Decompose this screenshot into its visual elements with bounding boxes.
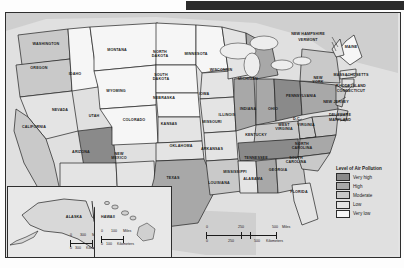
state-label-ohio: OHIO: [253, 107, 293, 111]
state-label-georgia: GEORGIA: [258, 168, 298, 172]
hawaii-label: HAWAII: [101, 215, 133, 219]
hawaii-miles-row: 0 100 Miles: [101, 229, 157, 236]
alaska-axis-line: [70, 243, 92, 244]
state-label-d-c: D.C.: [277, 117, 317, 121]
state-montana: [90, 23, 158, 71]
state-label-south-dakota: SOUTH DAKOTA: [141, 73, 181, 81]
legend-label: High: [353, 184, 362, 189]
state-label-california: CALIFORNIA: [14, 125, 54, 129]
state-label-delaware: DELAWARE: [320, 113, 360, 117]
legend-label: Moderate: [353, 193, 372, 198]
hawaii-km-tick-0: 0: [101, 242, 103, 246]
state-label-rhode-island: RHODE ISLAND: [331, 84, 371, 88]
hawaii-miles-tick-0: 0: [101, 229, 103, 233]
legend-swatch-icon: [336, 173, 350, 181]
legend-swatch-icon: [336, 182, 350, 190]
scale-miles-tick-0: 0: [206, 225, 208, 229]
hawaii-miles-tick-1: 100: [111, 229, 117, 233]
state-north-dakota: [156, 23, 196, 65]
scale-km-tick-0: 0: [206, 239, 208, 243]
state-label-pennsylvania: PENNSYLVANIA: [281, 94, 321, 98]
state-label-alabama: ALABAMA: [233, 177, 273, 181]
state-label-virginia: VIRGINIA: [286, 123, 326, 127]
state-label-new-hampshire: NEW HAMPSHIRE: [288, 32, 328, 36]
state-label-nebraska: NEBRASKA: [144, 96, 184, 100]
state-illinois: [234, 77, 256, 131]
alaska-miles-tick-1: 300: [80, 233, 86, 237]
legend-swatch-icon: [336, 191, 350, 199]
scale-miles-tick-1: 250: [238, 225, 244, 229]
scale-miles-tick-2: 500: [272, 225, 278, 229]
main-scale-bar: 0 250 500 Miles 0 250 500 Kilometers: [206, 225, 298, 247]
scale-tick-start: [206, 232, 207, 239]
scale-km-tick-2: 500: [254, 239, 260, 243]
scale-km-row: 0 250 500 Kilometers: [206, 240, 298, 247]
state-label-iowa: IOWA: [184, 92, 224, 96]
state-label-maine: MAINE: [331, 45, 371, 49]
legend-swatch-icon: [336, 210, 350, 218]
state-label-north-carolina: NORTH CAROLINA: [282, 142, 322, 150]
state-alabama: [256, 159, 278, 193]
state-label-minnesota: MINNESOTA: [176, 52, 216, 56]
legend-item-high[interactable]: High: [336, 182, 401, 190]
state-label-colorado: COLORADO: [114, 118, 154, 122]
state-indiana: [256, 79, 276, 125]
legend-label: Low: [353, 202, 361, 207]
state-label-montana: MONTANA: [97, 48, 137, 52]
hawaii-scale-bar: 0 100 Miles 0 100 Kilometers: [101, 229, 157, 250]
state-label-new-york: NEW YORK: [298, 76, 338, 84]
scale-km-unit: Kilometers: [266, 239, 283, 243]
legend-label: Very low: [353, 211, 370, 216]
hawaii-km-row: 0 100 Kilometers: [101, 243, 157, 250]
alaska-label: ALASKA: [54, 215, 94, 219]
state-label-nevada: NEVADA: [40, 108, 80, 112]
legend-item-moderate[interactable]: Moderate: [336, 191, 401, 199]
scale-miles-unit: Miles: [282, 225, 290, 229]
state-ohio: [274, 79, 302, 121]
state-label-wisconsin: WISCONSIN: [201, 68, 241, 72]
state-label-new-jersey: NEW JERSEY: [316, 100, 356, 104]
state-label-missouri: MISSOURI: [192, 120, 232, 124]
scale-tick-mid: [241, 232, 242, 239]
state-label-kansas: KANSAS: [149, 122, 189, 126]
legend-item-very-low[interactable]: Very low: [336, 210, 401, 218]
state-label-tennessee: TENNESSEE: [236, 156, 276, 160]
hawaii-km-unit: Kilometers: [117, 242, 134, 246]
state-label-michigan: MICHIGAN: [228, 77, 268, 81]
legend-item-low[interactable]: Low: [336, 201, 401, 209]
state-wyoming: [94, 65, 156, 109]
state-label-louisiana: LOUISIANA: [199, 181, 239, 185]
hawaii-miles-unit: Miles: [123, 229, 131, 233]
state-label-florida: FLORIDA: [279, 190, 319, 194]
state-label-illinois: ILLINOIS: [207, 113, 247, 117]
state-utah: [78, 127, 116, 167]
hawaii-axis-line: [101, 239, 123, 240]
state-label-mississippi: MISSISSIPPI: [215, 170, 255, 174]
legend-title: Level of Air Pollution: [336, 166, 401, 171]
state-label-arkansas: ARKANSAS: [192, 147, 232, 151]
legend-item-very-high[interactable]: Very high: [336, 173, 401, 181]
scale-miles-row: 0 250 500 Miles: [206, 225, 298, 232]
state-label-texas: TEXAS: [153, 176, 193, 180]
state-label-kentucky: KENTUCKY: [236, 133, 276, 137]
state-label-south-carolina: SOUTH CAROLINA: [276, 156, 316, 164]
state-label-wyoming: WYOMING: [96, 89, 136, 93]
state-label-arizona: ARIZONA: [61, 150, 101, 154]
state-label-idaho: IDAHO: [55, 72, 95, 76]
state-label-utah: UTAH: [74, 114, 114, 118]
state-label-vermont: VERMONT: [288, 38, 328, 42]
legend-swatch-icon: [336, 201, 350, 209]
state-label-washington: WASHINGTON: [26, 42, 66, 46]
alaska-km-tick-1: 300: [75, 246, 81, 250]
scale-km-tick-1: 250: [228, 239, 234, 243]
state-label-maryland: MARYLAND: [320, 118, 360, 122]
map-frame: WASHINGTONOREGONIDAHOMONTANAWYOMINGNEVAD…: [5, 12, 401, 258]
state-label-oregon: OREGON: [19, 66, 59, 70]
state-arkansas: [204, 131, 238, 161]
alaska-km-tick-0: 0: [70, 246, 72, 250]
map-legend: Level of Air Pollution Very highHighMode…: [336, 166, 401, 219]
legend-rows: Very highHighModerateLowVery low: [336, 173, 401, 218]
scale-tick-end: [276, 232, 277, 239]
state-label-new-mexico: NEW MEXICO: [99, 152, 139, 160]
state-label-connecticut: CONNECTICUT: [331, 89, 371, 93]
